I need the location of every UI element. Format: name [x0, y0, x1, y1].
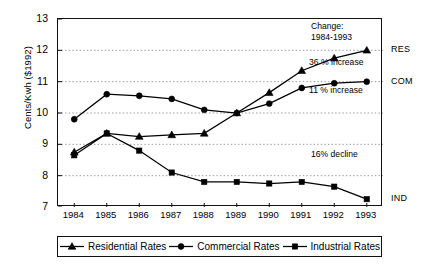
chart-svg	[58, 19, 383, 207]
y-tick-label: 7	[22, 201, 48, 211]
data-point-com	[169, 96, 175, 102]
y-tick-label: 9	[22, 138, 48, 148]
legend-item[interactable]: Industrial Rates	[282, 241, 380, 252]
legend-item[interactable]: Commercial Rates	[168, 241, 279, 252]
legend-item-label: Commercial Rates	[197, 241, 279, 252]
annotation-res-change: 36 % increase	[309, 57, 363, 67]
data-point-ind	[202, 179, 207, 184]
data-point-ind	[72, 153, 77, 158]
data-point-ind	[137, 148, 142, 153]
data-point-res	[363, 46, 371, 53]
data-point-com	[234, 110, 240, 116]
y-tick-label: 10	[22, 107, 48, 117]
data-point-com	[299, 85, 305, 91]
data-point-ind	[169, 170, 174, 175]
y-tick-label: 8	[22, 170, 48, 180]
data-point-ind	[104, 131, 109, 136]
legend-marker-circle-icon	[168, 241, 194, 252]
data-point-com	[136, 93, 142, 99]
y-tick-label: 12	[22, 44, 48, 54]
plot-area	[57, 18, 382, 206]
chart-legend: Residential RatesCommercial RatesIndustr…	[57, 236, 382, 257]
data-point-ind	[234, 179, 239, 184]
series-end-label-com: COM	[391, 76, 413, 86]
x-tick-label: 1993	[343, 209, 389, 220]
data-point-com	[104, 91, 110, 97]
legend-item[interactable]: Residential Rates	[59, 241, 166, 252]
legend-item-label: Industrial Rates	[311, 241, 380, 252]
legend-marker-triangle-icon	[59, 241, 85, 252]
data-point-res	[265, 89, 273, 96]
annotation-change-line1: Change:	[311, 21, 352, 32]
y-tick-label: 11	[22, 76, 48, 86]
series-end-label-ind: IND	[391, 193, 407, 203]
annotation-com-change: 11 % increase	[309, 85, 363, 95]
data-point-ind	[364, 197, 369, 202]
series-line-ind	[74, 133, 367, 199]
annotation-ind-change: 16% decline	[311, 149, 358, 159]
series-end-label-res: RES	[391, 44, 410, 54]
legend-item-label: Residential Rates	[88, 241, 166, 252]
data-point-res	[200, 129, 208, 136]
y-tick-label: 13	[22, 13, 48, 23]
data-point-com	[71, 116, 77, 122]
annotation-change-line2: 1984-1993	[311, 32, 352, 43]
annotation-change-title: Change: 1984-1993	[311, 21, 352, 42]
data-point-com	[364, 79, 370, 85]
legend-marker-square-icon	[282, 241, 308, 252]
data-point-com	[266, 101, 272, 107]
chart-page: Cents/Kwh ($1992) 78910111213 1984198519…	[0, 0, 433, 266]
data-point-com	[201, 107, 207, 113]
data-point-ind	[332, 184, 337, 189]
data-point-ind	[267, 181, 272, 186]
data-point-ind	[299, 179, 304, 184]
